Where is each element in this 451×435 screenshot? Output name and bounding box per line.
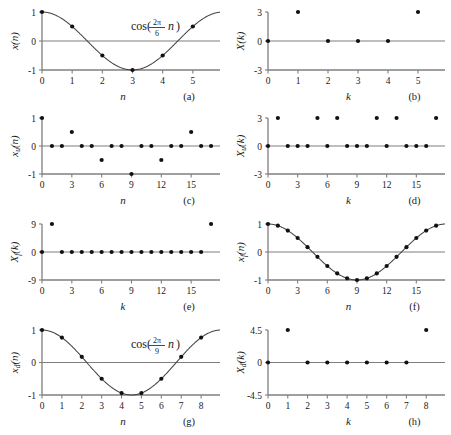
- data-point: [139, 391, 143, 395]
- data-point: [424, 328, 428, 332]
- data-point: [416, 10, 420, 14]
- data-point: [129, 250, 133, 254]
- x-tick-label: 6: [325, 286, 330, 296]
- panel-caption: (c): [183, 195, 195, 207]
- x-axis-label: n: [120, 415, 126, 427]
- data-point: [119, 391, 123, 395]
- x-tick-label: 3: [69, 286, 74, 296]
- x-tick-label: 1: [60, 401, 65, 411]
- data-point: [404, 360, 408, 364]
- data-point: [424, 228, 428, 232]
- data-point: [434, 224, 438, 228]
- data-point: [305, 144, 309, 148]
- data-point: [404, 144, 408, 148]
- data-point: [110, 144, 114, 148]
- formula-annotation: cos(2π9n): [131, 336, 180, 356]
- data-point: [385, 360, 389, 364]
- y-tick-label: 1: [31, 8, 36, 18]
- data-point: [325, 264, 329, 268]
- data-point: [424, 144, 428, 148]
- x-tick-label: 9: [355, 286, 360, 296]
- x-axis-label: k: [121, 300, 127, 312]
- data-point: [385, 264, 389, 268]
- x-tick-label: 6: [99, 286, 104, 296]
- x-tick-label: 15: [186, 180, 196, 190]
- data-point: [286, 328, 290, 332]
- x-tick-label: 7: [179, 401, 184, 411]
- x-tick-label: 12: [157, 180, 167, 190]
- x-tick-label: 4: [345, 401, 350, 411]
- data-point: [179, 250, 183, 254]
- svg-text:Xd(k): Xd(k): [234, 351, 248, 375]
- y-tick-label: 0: [257, 142, 262, 152]
- plot-e: 90-903691215Xf(k)k(e): [0, 212, 226, 320]
- data-point: [129, 172, 133, 176]
- data-point: [179, 355, 183, 359]
- x-tick-label: 7: [404, 401, 409, 411]
- data-point: [315, 116, 319, 120]
- data-point: [70, 250, 74, 254]
- data-point: [169, 250, 173, 254]
- x-tick-label: 5: [190, 76, 195, 86]
- plot-d: 30-303691215Xu(k)k(d): [226, 106, 451, 214]
- data-point: [356, 39, 360, 43]
- data-point: [40, 116, 44, 120]
- y-tick-label: 0: [257, 37, 262, 47]
- y-axis-label: Xf(k): [8, 241, 22, 263]
- x-tick-label: 3: [295, 180, 300, 190]
- data-point: [209, 222, 213, 226]
- x-tick-label: 2: [326, 76, 331, 86]
- y-axis-label: Xu(k): [234, 134, 248, 158]
- y-axis-label: Xd(k): [234, 351, 248, 375]
- data-point: [394, 255, 398, 259]
- x-tick-label: 1: [285, 401, 290, 411]
- panel-g: 10-1012345678xd(n)n(g)cos(2π9n): [0, 318, 226, 435]
- y-tick-label: -1: [28, 391, 36, 401]
- svg-text:Xu(k): Xu(k): [234, 134, 248, 158]
- svg-text:xd(n): xd(n): [8, 351, 22, 374]
- x-axis-label: n: [120, 194, 126, 206]
- y-axis-label: xd(n): [8, 351, 22, 374]
- data-point: [169, 144, 173, 148]
- data-point: [80, 250, 84, 254]
- data-point: [189, 130, 193, 134]
- data-point: [296, 236, 300, 240]
- x-tick-label: 0: [266, 401, 271, 411]
- data-point: [191, 24, 195, 28]
- x-tick-label: 3: [295, 286, 300, 296]
- panel-caption: (f): [409, 301, 420, 313]
- data-point: [199, 144, 203, 148]
- data-point: [266, 222, 270, 226]
- x-tick-label: 5: [365, 401, 370, 411]
- y-tick-label: 0: [31, 358, 36, 368]
- data-point: [130, 68, 134, 72]
- data-point: [100, 53, 104, 57]
- y-axis-label: X(k): [234, 31, 247, 51]
- svg-text:cos(: cos(: [131, 19, 151, 33]
- x-tick-label: 3: [325, 401, 330, 411]
- svg-text:xu(n): xu(n): [8, 135, 22, 158]
- data-point: [375, 271, 379, 275]
- x-tick-label: 5: [139, 401, 144, 411]
- svg-text:6: 6: [155, 29, 159, 38]
- data-point: [119, 144, 123, 148]
- y-tick-label: 0: [257, 358, 262, 368]
- data-point: [90, 250, 94, 254]
- panel-f: 10-103691215xf(n)n(f): [226, 212, 451, 320]
- y-tick-label: -1: [254, 276, 262, 286]
- x-tick-label: 6: [159, 401, 164, 411]
- data-point: [286, 144, 290, 148]
- data-point: [50, 144, 54, 148]
- x-tick-label: 0: [40, 76, 45, 86]
- y-tick-label: 3: [257, 8, 262, 18]
- x-tick-label: 0: [266, 180, 271, 190]
- x-axis-label: k: [346, 194, 352, 206]
- data-point: [365, 360, 369, 364]
- y-tick-label: 1: [31, 326, 36, 336]
- y-tick-label: 1: [31, 114, 36, 124]
- y-tick-label: 3: [257, 114, 262, 124]
- x-tick-label: 12: [382, 286, 392, 296]
- svg-text:9: 9: [155, 347, 159, 356]
- svg-text:2π: 2π: [153, 18, 161, 27]
- data-point: [80, 144, 84, 148]
